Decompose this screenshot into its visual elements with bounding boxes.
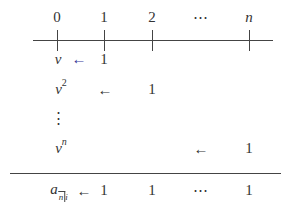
total-payment-n: 1 (245, 183, 253, 198)
annuity-a: a (50, 181, 58, 197)
time-label-dots: ⋯ (193, 10, 208, 25)
row1-discount-v: v (55, 52, 62, 67)
tick-2 (152, 30, 153, 51)
rown-discount-vn: vn (55, 141, 67, 156)
row2-payment: 1 (148, 82, 156, 97)
timeline-axis (33, 40, 273, 41)
row2-base: v (55, 81, 62, 97)
sum-line (10, 173, 281, 174)
rown-arrow-icon: ← (194, 142, 209, 157)
tick-1 (104, 30, 105, 51)
time-label-1: 1 (100, 10, 108, 25)
total-payment-2: 1 (148, 183, 156, 198)
total-arrow-icon: ← (77, 184, 92, 199)
rown-exponent: n (62, 136, 67, 147)
rown-base: v (55, 140, 62, 156)
row-vertical-ellipsis: ⋮ (51, 111, 66, 126)
annuity-rate-i: i (65, 192, 68, 202)
row2-discount-v2: v2 (55, 82, 67, 97)
total-payment-dots: ⋯ (193, 183, 208, 198)
tick-n (249, 30, 250, 51)
time-label-2: 2 (148, 10, 156, 25)
row2-arrow-icon: ← (98, 83, 113, 98)
rown-payment: 1 (245, 141, 253, 156)
row1-arrow-icon: ← (72, 52, 87, 67)
total-payment-1: 1 (100, 183, 108, 198)
time-label-n: n (245, 10, 253, 25)
row1-payment: 1 (100, 52, 108, 67)
row2-exponent: 2 (62, 77, 67, 88)
time-label-0: 0 (53, 10, 61, 25)
tick-0 (57, 30, 58, 51)
annuity-symbol: ani (50, 182, 68, 200)
annuity-angle-n: n (58, 191, 66, 202)
